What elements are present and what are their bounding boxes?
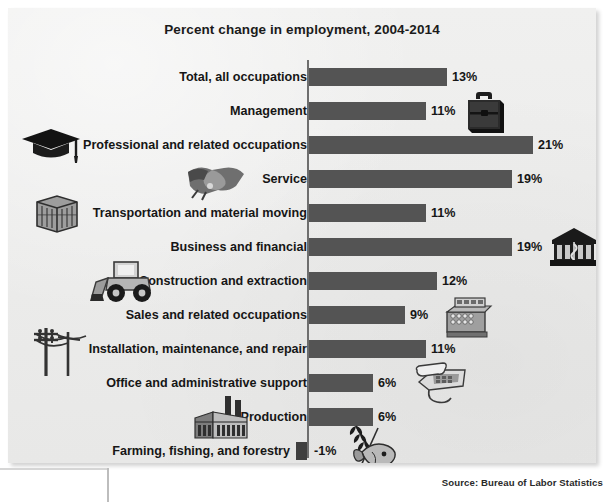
bar xyxy=(309,136,533,154)
bar-row: Service 19% xyxy=(8,162,596,196)
bar-value-label: 19% xyxy=(517,230,542,264)
chart-title: Percent change in employment, 2004-2014 xyxy=(8,22,596,37)
bar xyxy=(309,374,373,392)
bar xyxy=(309,340,426,358)
graduation-cap-icon xyxy=(20,126,82,166)
bar xyxy=(309,68,447,86)
bar-value-label: 19% xyxy=(517,162,542,196)
bar-value-label: 12% xyxy=(442,264,467,298)
bar-row: Management 11% xyxy=(8,94,596,128)
chart-panel: Percent change in employment, 2004-2014 … xyxy=(8,8,596,463)
bar-row: Construction and extraction 12% xyxy=(8,264,596,298)
bar-value-label: 11% xyxy=(431,196,456,230)
bar-row-label: Management xyxy=(230,94,307,128)
bar-row: Total, all occupations 13% xyxy=(8,60,596,94)
bar-row-label: Farming, fishing, and forestry xyxy=(112,434,290,463)
bar-row-label: Business and financial xyxy=(171,230,307,264)
shipping-container-icon xyxy=(33,192,81,234)
bar xyxy=(309,102,426,120)
bar-value-label: -1% xyxy=(314,434,336,463)
bar-row-label: Installation, maintenance, and repair xyxy=(89,332,307,366)
bar xyxy=(309,170,512,188)
bar-value-label: 21% xyxy=(538,128,563,162)
bar-row: Professional and related occupations 21% xyxy=(8,128,596,162)
bar-row: Farming, fishing, and forestry -1% xyxy=(8,434,596,463)
bar-value-label: 11% xyxy=(431,94,456,128)
bar-row-label: Transportation and material moving xyxy=(93,196,307,230)
bar xyxy=(296,442,307,460)
bar-row: Sales and related occupations 9% xyxy=(8,298,596,332)
bar xyxy=(309,408,373,426)
bar-row-label: Professional and related occupations xyxy=(83,128,307,162)
bar-row-label: Service xyxy=(262,162,307,196)
bar-value-label: 13% xyxy=(452,60,477,94)
bar-row: Transportation and material moving 11% xyxy=(8,196,596,230)
bar-row: Business and financial 19% xyxy=(8,230,596,264)
bar xyxy=(309,306,405,324)
bar-value-label: 6% xyxy=(378,400,396,434)
bar-row-label: Production xyxy=(241,400,307,434)
bar xyxy=(309,238,512,256)
page-edge-horizontal xyxy=(0,468,108,470)
bar-row: Office and administrative support 6% xyxy=(8,366,596,400)
page-edge-vertical xyxy=(107,468,109,502)
bar xyxy=(309,204,426,222)
bar-row-label: Construction and extraction xyxy=(139,264,307,298)
bar-row-label: Total, all occupations xyxy=(179,60,307,94)
source-note: Source: Bureau of Labor Statistics xyxy=(442,477,603,488)
bar-value-label: 6% xyxy=(378,366,396,400)
bar xyxy=(309,272,437,290)
bar-value-label: 11% xyxy=(431,332,456,366)
bar-row-label: Sales and related occupations xyxy=(126,298,307,332)
plot-area: Total, all occupations 13% Management 11… xyxy=(8,52,596,462)
chart-page: Percent change in employment, 2004-2014 … xyxy=(0,0,611,502)
bar-value-label: 9% xyxy=(410,298,428,332)
bar-row-label: Office and administrative support xyxy=(106,366,307,400)
bar-row: Production 6% xyxy=(8,400,596,434)
bar-row: Installation, maintenance, and repair 11… xyxy=(8,332,596,366)
